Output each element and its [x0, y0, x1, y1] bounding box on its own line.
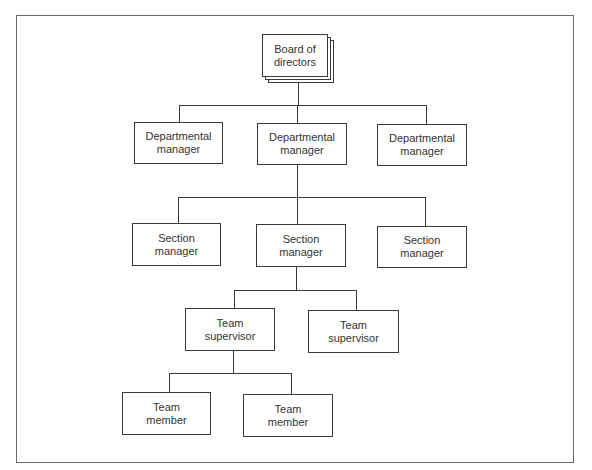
connector [234, 290, 235, 308]
node-label-line1: Team [217, 317, 244, 330]
node-label-line2: manager [400, 145, 443, 158]
departmental-manager-box: Departmental manager [134, 122, 223, 164]
node-label-line2: directors [274, 56, 316, 69]
section-manager-box: Section manager [132, 223, 221, 266]
node-label-line2: manager [155, 245, 198, 258]
connector [291, 373, 292, 394]
team-supervisor-box: Team supervisor [308, 310, 399, 353]
connector [297, 105, 298, 123]
connector [179, 105, 180, 122]
node-label-line2: manager [400, 247, 443, 260]
node-label-line2: supervisor [205, 330, 256, 343]
departmental-manager-box: Departmental manager [377, 124, 467, 166]
connector [298, 83, 299, 105]
node-label-line2: manager [280, 144, 323, 157]
connector [356, 290, 357, 310]
node-label-line1: Departmental [145, 130, 211, 143]
connector [297, 165, 298, 197]
node-label-line2: member [146, 414, 186, 427]
node-label-line1: Section [283, 233, 320, 246]
connector [169, 373, 292, 374]
node-label-line1: Team [340, 319, 367, 332]
team-supervisor-box: Team supervisor [185, 308, 275, 351]
connector [169, 373, 170, 392]
node-label-line1: Team [275, 403, 302, 416]
node-label-line1: Section [158, 232, 195, 245]
team-member-box: Team member [122, 392, 211, 435]
node-label-line2: supervisor [328, 332, 379, 345]
team-member-box: Team member [243, 394, 333, 437]
node-label-line1: Departmental [389, 132, 455, 145]
section-manager-box: Section manager [377, 226, 467, 268]
connector [234, 290, 357, 291]
connector [178, 197, 179, 223]
board-of-directors-box: Board of directors [262, 34, 328, 77]
connector [233, 351, 234, 373]
connector [425, 197, 426, 226]
node-label-line1: Section [404, 234, 441, 247]
node-label-line2: member [268, 416, 308, 429]
connector [178, 197, 426, 198]
node-label-line1: Board of [274, 43, 316, 56]
node-label-line1: Departmental [269, 131, 335, 144]
node-label-line1: Team [153, 401, 180, 414]
connector [426, 105, 427, 124]
connector [297, 197, 298, 224]
departmental-manager-box: Departmental manager [257, 123, 347, 165]
connector [296, 267, 297, 290]
connector [179, 105, 427, 106]
node-label-line2: manager [279, 246, 322, 259]
section-manager-box: Section manager [256, 224, 346, 267]
node-label-line2: manager [157, 143, 200, 156]
